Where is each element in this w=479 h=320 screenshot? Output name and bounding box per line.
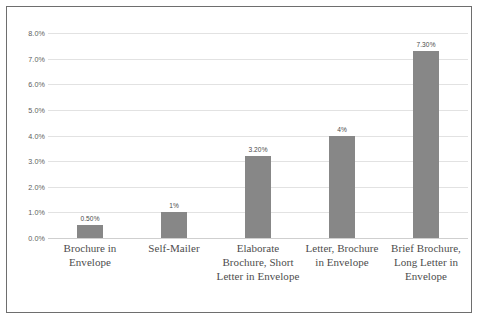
x-axis-category-label: Self-Mailer bbox=[132, 241, 216, 255]
bar-value-label: 0.50% bbox=[80, 215, 99, 222]
bar-slot: 0.50% bbox=[48, 33, 132, 238]
y-axis: 0.0%1.0%2.0%3.0%4.0%5.0%6.0%7.0%8.0% bbox=[7, 33, 45, 238]
bar-value-label: 1% bbox=[169, 202, 179, 209]
x-axis: Brochure in EnvelopeSelf-MailerElaborate… bbox=[48, 241, 468, 313]
x-axis-category-label: Brief Brochure, Long Letter in Envelope bbox=[384, 241, 468, 283]
bar-value-label: 3.20% bbox=[248, 146, 267, 153]
y-axis-tick-label: 1.0% bbox=[9, 208, 45, 217]
bar-value-label: 4% bbox=[337, 126, 347, 133]
y-axis-tick-label: 6.0% bbox=[9, 80, 45, 89]
chart-page: 0.0%1.0%2.0%3.0%4.0%5.0%6.0%7.0%8.0% 0.5… bbox=[0, 0, 479, 320]
y-axis-tick-label: 8.0% bbox=[9, 29, 45, 38]
bar[interactable] bbox=[245, 156, 271, 238]
y-axis-tick-label: 0.0% bbox=[9, 234, 45, 243]
gridline bbox=[48, 238, 468, 239]
category-label-text: Brief Brochure, Long Letter in Envelope bbox=[384, 241, 468, 283]
bar-slot: 4% bbox=[300, 33, 384, 238]
x-axis-category-label: Elaborate Brochure, Short Letter in Enve… bbox=[216, 241, 300, 283]
bar-slot: 7.30% bbox=[384, 33, 468, 238]
y-axis-tick-label: 2.0% bbox=[9, 182, 45, 191]
bar[interactable] bbox=[413, 51, 439, 238]
category-label-text: Letter, Brochure in Envelope bbox=[300, 241, 384, 269]
plot-wrapper: 0.0%1.0%2.0%3.0%4.0%5.0%6.0%7.0%8.0% 0.5… bbox=[7, 7, 471, 312]
category-label-text: Elaborate Brochure, Short Letter in Enve… bbox=[216, 241, 300, 283]
category-label-text: Self-Mailer bbox=[132, 241, 216, 255]
y-axis-tick-label: 3.0% bbox=[9, 157, 45, 166]
y-axis-tick-label: 4.0% bbox=[9, 131, 45, 140]
x-axis-category-label: Letter, Brochure in Envelope bbox=[300, 241, 384, 269]
y-axis-tick-label: 5.0% bbox=[9, 105, 45, 114]
bar[interactable] bbox=[161, 212, 187, 238]
x-axis-category-label: Brochure in Envelope bbox=[48, 241, 132, 269]
bar-slot: 1% bbox=[132, 33, 216, 238]
category-label-text: Brochure in Envelope bbox=[48, 241, 132, 269]
bar[interactable] bbox=[329, 136, 355, 239]
bar-value-label: 7.30% bbox=[416, 41, 435, 48]
bar-slot: 3.20% bbox=[216, 33, 300, 238]
chart-frame: 0.0%1.0%2.0%3.0%4.0%5.0%6.0%7.0%8.0% 0.5… bbox=[6, 6, 472, 313]
bar-series: 0.50%1%3.20%4%7.30% bbox=[48, 33, 468, 238]
y-axis-tick-label: 7.0% bbox=[9, 54, 45, 63]
bar[interactable] bbox=[77, 225, 103, 238]
